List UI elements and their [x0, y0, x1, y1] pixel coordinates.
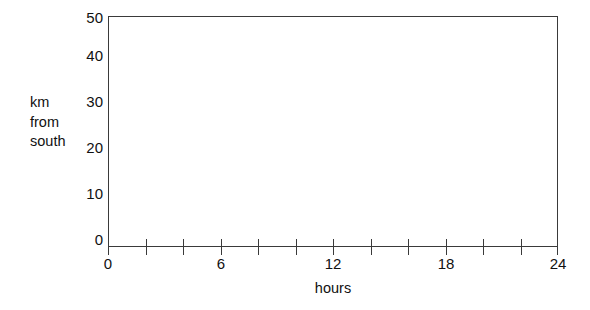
y-tick-label-0: 0 [62, 232, 103, 247]
data-series-canvas [109, 17, 557, 246]
x-tick-mark-4 [183, 239, 184, 255]
x-tick-mark-20 [483, 239, 484, 255]
x-tick-label-12: 12 [313, 256, 353, 271]
x-tick-mark-10 [296, 239, 297, 255]
x-tick-mark-14 [371, 239, 372, 255]
x-tick-mark-12 [333, 239, 334, 255]
x-tick-mark-18 [446, 239, 447, 255]
x-tick-mark-22 [521, 239, 522, 255]
y-axis-label-line-2: from [30, 113, 65, 133]
y-tick-label-50: 50 [62, 10, 103, 25]
x-tick-mark-2 [146, 239, 147, 255]
y-tick-label-30: 30 [62, 94, 103, 109]
x-tick-mark-0 [108, 239, 109, 255]
x-tick-mark-8 [258, 239, 259, 255]
y-axis-label-line-1: km [30, 93, 65, 113]
x-tick-mark-6 [221, 239, 222, 255]
plot-area [108, 16, 558, 247]
x-tick-mark-24 [557, 239, 558, 255]
x-tick-label-0: 0 [88, 256, 128, 271]
y-tick-label-20: 20 [62, 140, 103, 155]
x-axis-label: hours [293, 280, 373, 296]
y-tick-label-10: 10 [62, 186, 103, 201]
chart-figure: km from south 0 10 20 30 40 50 0 6 12 18… [0, 0, 590, 310]
y-tick-label-40: 40 [62, 48, 103, 63]
y-axis-label: km from south [30, 93, 65, 152]
x-tick-mark-16 [408, 239, 409, 255]
x-tick-label-6: 6 [201, 256, 241, 271]
x-tick-label-18: 18 [426, 256, 466, 271]
x-tick-label-24: 24 [538, 256, 578, 271]
y-axis-label-line-3: south [30, 132, 65, 152]
